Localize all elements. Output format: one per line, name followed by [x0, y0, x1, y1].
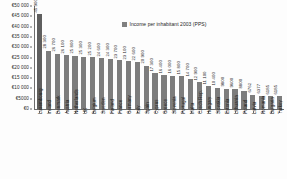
bar-slot: 25 300 — [79, 6, 88, 109]
y-axis-tick-mark — [30, 67, 32, 68]
bar-value-label: 23 700 — [115, 45, 120, 58]
x-axis-label-slot: Slovakia — [213, 111, 222, 169]
y-axis-tick-label: €40 000 — [12, 24, 29, 29]
x-axis-label-slot: Turkey — [275, 111, 284, 169]
y-axis-tick-mark — [30, 98, 32, 99]
bar-value-label: 8800 — [239, 79, 244, 89]
x-axis-label-slot: Sweden — [97, 111, 106, 169]
bar-value-label: 9600 — [230, 77, 235, 87]
x-axis-label-slot: Portugal — [177, 111, 186, 169]
bar-slot: 9800 — [222, 6, 231, 109]
bar-value-label: 12 900 — [195, 67, 200, 80]
y-axis-tick-mark — [30, 109, 32, 110]
bar-value-label: 25 300 — [79, 41, 84, 54]
x-axis-label-slot: Luxembourg — [35, 111, 44, 169]
bar-value-label: 45 900 — [35, 0, 40, 12]
bar-value-label: 24 600 — [97, 43, 102, 56]
y-axis-tick-mark — [30, 78, 32, 79]
x-axis-category-label: Turkey — [279, 100, 284, 114]
bar-value-label: 24 300 — [106, 44, 111, 57]
x-axis-category-labels: LuxembourgIrelandDenmarkAustriaNetherlan… — [35, 111, 284, 169]
y-axis-tick-label: €15 000 — [12, 76, 29, 81]
x-axis-label-slot: Germany — [124, 111, 133, 169]
x-axis-label-slot: Denmark — [53, 111, 62, 169]
bar-value-label: 17 300 — [150, 58, 155, 71]
bar-value-label: 9800 — [222, 77, 227, 87]
y-axis: €50 000€45 000€40 000€35 000€30 000€25 0… — [0, 6, 32, 110]
y-axis-tick-mark — [30, 16, 32, 17]
x-axis-label-slot: Poland — [239, 111, 248, 169]
y-axis-tick-label: €50 000 — [12, 4, 29, 9]
bar-slot: 26 700 — [53, 6, 62, 109]
bar-value-label: 16 000 — [168, 61, 173, 74]
x-axis-label-slot: Estonia — [222, 111, 231, 169]
bar-slot: 8800 — [239, 6, 248, 109]
legend-swatch-icon — [122, 22, 127, 27]
x-axis-label-slot: Austria — [62, 111, 71, 169]
bar-value-label: 14 700 — [186, 63, 191, 76]
y-axis-tick-label: €5000 — [16, 96, 29, 101]
bar-value-label: 10 400 — [213, 72, 218, 85]
bar-slot: 25 200 — [88, 6, 97, 109]
bar-value-label: 15 800 — [177, 61, 182, 74]
x-axis-label-slot: Latvia — [248, 111, 257, 169]
bar-value-label: 28 300 — [44, 35, 49, 48]
legend-label: Income per inhabitant 2003 (PPS) — [130, 22, 207, 27]
bar-value-label: 6762 — [248, 83, 253, 93]
bar-value-label: 6185 — [275, 85, 280, 95]
x-axis-label-slot: Greece — [159, 111, 168, 169]
bar-value-label: 26 700 — [53, 39, 58, 52]
bar-value-label: 20 900 — [142, 51, 147, 64]
x-axis-label-slot: Lithuania — [231, 111, 240, 169]
bar-value-label: 25 800 — [70, 40, 75, 53]
x-axis-label-slot: Hungary — [204, 111, 213, 169]
bar-value-label: 11 100 — [204, 71, 209, 84]
x-axis-label-slot: Bulgaria — [266, 111, 275, 169]
x-axis-label-slot: Cyprus — [151, 111, 160, 169]
y-axis-tick-label: €0 — [24, 107, 29, 112]
bar: 22 600 — [135, 62, 140, 109]
x-axis-label-slot: Malta — [186, 111, 195, 169]
bar-value-label: 23 100 — [124, 46, 129, 59]
bar-value-label: 6185 — [266, 85, 271, 95]
y-axis-tick-label: €25 000 — [12, 55, 29, 60]
bar-value-label: 6377 — [257, 84, 262, 94]
x-axis-label-slot: France — [115, 111, 124, 169]
bar-value-label: 25 200 — [88, 42, 93, 55]
bar-slot: 10 400 — [213, 6, 222, 109]
x-axis-label-slot: Slovenia — [168, 111, 177, 169]
y-axis-tick-label: €45 000 — [12, 14, 29, 19]
bar-slot: 9600 — [231, 6, 240, 109]
bar-value-label: 22 600 — [133, 47, 138, 60]
x-axis-label-slot: Romania — [257, 111, 266, 169]
x-axis-label-slot: Netherlands — [71, 111, 80, 169]
y-axis-tick-label: €35 000 — [12, 35, 29, 40]
bar-slot: 26 100 — [62, 6, 71, 109]
bar-value-label: 26 100 — [62, 40, 67, 53]
bar-value-label: 16 400 — [159, 60, 164, 73]
x-axis-label-slot: Ireland — [44, 111, 53, 169]
bar: 25 300 — [81, 57, 86, 109]
bar-slot: 24 600 — [97, 6, 106, 109]
bar-slot: 6185 — [275, 6, 284, 109]
y-axis-tick-label: €30 000 — [12, 45, 29, 50]
y-axis-tick-mark — [30, 88, 32, 89]
bar-slot: 28 300 — [44, 6, 53, 109]
y-axis-tick-mark — [30, 36, 32, 37]
chart-legend: Income per inhabitant 2003 (PPS) — [122, 22, 206, 27]
x-axis-label-slot: Czech Rep. — [195, 111, 204, 169]
x-axis-label-slot: Belgium — [88, 111, 97, 169]
income-per-inhabitant-bar-chart: €50 000€45 000€40 000€35 000€30 000€25 0… — [0, 0, 287, 179]
x-axis-label-slot: Spain — [142, 111, 151, 169]
y-axis-tick-label: €20 000 — [12, 66, 29, 71]
y-axis-tick-mark — [30, 6, 32, 7]
x-axis-label-slot: UK — [79, 111, 88, 169]
x-axis-label-slot: Finland — [106, 111, 115, 169]
y-axis-tick-mark — [30, 26, 32, 27]
y-axis-tick-mark — [30, 47, 32, 48]
y-axis-tick-label: €10 000 — [12, 86, 29, 91]
y-axis-tick-mark — [30, 57, 32, 58]
x-axis-label-slot: Italy — [133, 111, 142, 169]
